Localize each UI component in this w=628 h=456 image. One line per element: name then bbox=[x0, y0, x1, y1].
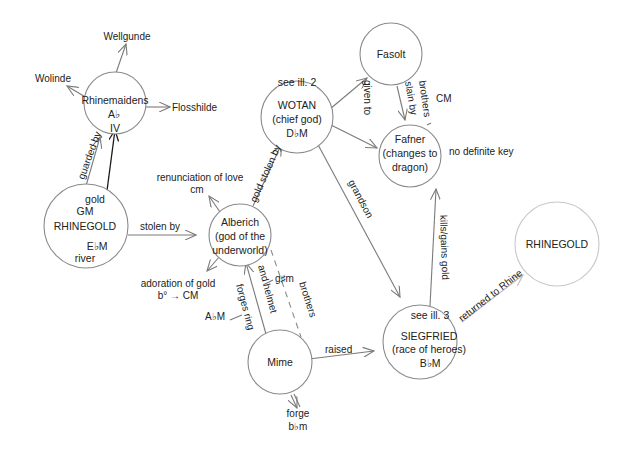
edge-to-renunciation bbox=[209, 196, 220, 212]
fafner-name: Fafner bbox=[395, 133, 426, 145]
edge-label-slain-by: slain by bbox=[403, 80, 420, 115]
rhinegold-river: river bbox=[75, 252, 96, 264]
fafner-desc-2: dragon) bbox=[392, 161, 428, 173]
label-forge: forge bbox=[287, 408, 310, 419]
edge-to-adoration bbox=[207, 256, 220, 271]
edge-given-to-fasolt bbox=[330, 78, 367, 109]
edge-label-kills-gains-gold: kills/gains gold bbox=[438, 215, 451, 280]
edge-label-given-to: given to bbox=[362, 80, 373, 115]
label-adoration-key: b° → CM bbox=[158, 290, 199, 301]
edge-kills-gains-gold bbox=[430, 189, 436, 306]
fasolt-label: Fasolt bbox=[377, 48, 406, 60]
edge-to-forge bbox=[291, 395, 297, 408]
label-helmet-key: g♯m bbox=[275, 273, 294, 284]
rhinemaidens-numeral: IV bbox=[110, 122, 120, 134]
wotan-key: D♭M bbox=[286, 127, 307, 139]
rhinemaidens-label: Rhinemaidens bbox=[81, 94, 148, 106]
rhinegold-key: E♭M bbox=[87, 240, 108, 252]
fafner-desc-1: (changes to bbox=[383, 147, 438, 159]
edge-label-stolen-by: stolen by bbox=[140, 221, 180, 232]
label-wellgunde: Wellgunde bbox=[103, 31, 151, 42]
tick-forges-key bbox=[230, 315, 242, 320]
siegfried-note: see ill. 3 bbox=[411, 309, 450, 321]
edge-slain-by bbox=[397, 86, 405, 120]
edge-label-grandson: grandson bbox=[346, 178, 375, 220]
wotan-desc: (chief god) bbox=[272, 113, 322, 125]
label-adoration: adoration of gold bbox=[141, 278, 216, 289]
label-renunciation: renunciation of love bbox=[157, 172, 244, 183]
edge-brothers-top bbox=[427, 123, 431, 125]
edge-label-gold-stolen-by: gold stolen by bbox=[248, 143, 283, 204]
label-flosshilde: Flosshilde bbox=[172, 102, 217, 113]
label-renunciation-key: cm bbox=[190, 184, 203, 195]
rhinegold-left-label: RHINEGOLD bbox=[54, 220, 117, 232]
siegfried-desc: (race of heroes) bbox=[392, 343, 466, 355]
edge-label-brothers-bottom: brothers bbox=[297, 280, 319, 318]
label-forges-key: A♭M bbox=[205, 311, 225, 322]
siegfried-key: B♭M bbox=[420, 357, 441, 369]
edge-given-to-fafner bbox=[331, 125, 377, 148]
alberich-desc-1: (god of the bbox=[215, 230, 265, 242]
rhinegold-right-text: RHINEGOLD bbox=[526, 238, 589, 250]
edge-label-raised: raised bbox=[325, 344, 352, 355]
mime-label: Mime bbox=[267, 356, 293, 368]
label-forge-key: b♭m bbox=[289, 421, 308, 432]
leitmotif-diagram: Rhinemaidens A♭ IV gold GM RHINEGOLD E♭M… bbox=[0, 0, 628, 456]
alberich-name: Alberich bbox=[221, 216, 259, 228]
wotan-note: see ill. 2 bbox=[278, 76, 317, 88]
rhinegold-gold: gold bbox=[85, 193, 105, 205]
label-wolinde: Wolinde bbox=[35, 73, 71, 84]
label-no-definite-key: no definite key bbox=[449, 146, 514, 157]
mime-text: Mime bbox=[267, 356, 293, 368]
alberich-desc-2: underworld) bbox=[212, 244, 267, 256]
wotan-name: WOTAN bbox=[278, 99, 316, 111]
rhinemaidens-key: A♭ bbox=[108, 108, 120, 120]
rhinegold-gm: GM bbox=[77, 205, 94, 217]
rhinegold-right-label: RHINEGOLD bbox=[526, 238, 589, 250]
edge-to-wellgunde bbox=[116, 44, 126, 73]
fasolt-text: Fasolt bbox=[377, 48, 406, 60]
label-brothers-key: CM bbox=[436, 93, 452, 104]
edge-to-forge-double bbox=[294, 394, 300, 407]
siegfried-name: SIEGFRIED bbox=[401, 330, 458, 342]
edge-label-and-helmet: and helmet bbox=[256, 264, 279, 315]
edge-label-returned-to-rhine: returned to Rhine bbox=[456, 267, 524, 324]
